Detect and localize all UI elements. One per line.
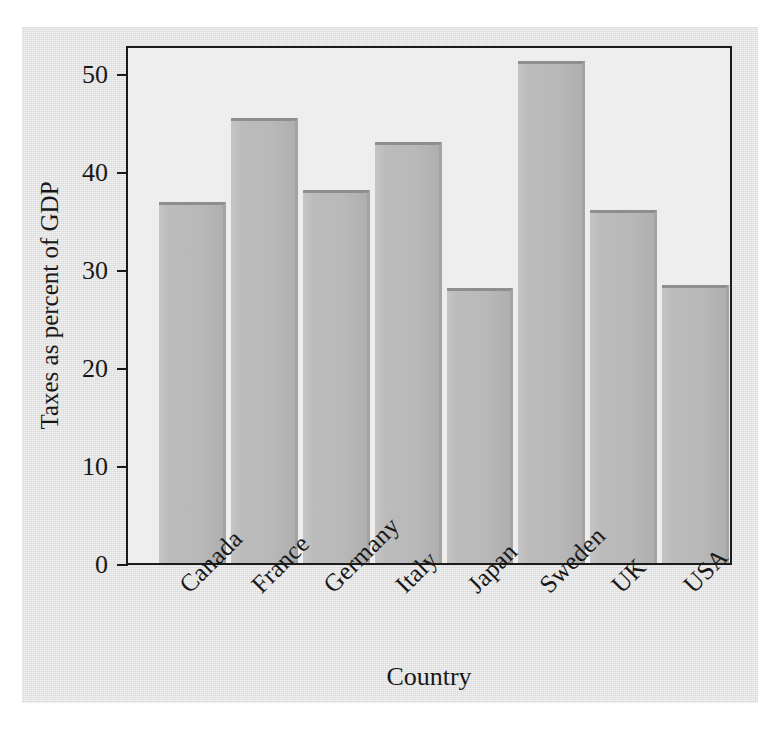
plot-frame: [126, 46, 732, 565]
bar: [375, 142, 442, 563]
bar: [231, 118, 298, 563]
x-axis-title: Country: [126, 662, 732, 692]
y-axis-tick-label: 20: [26, 356, 108, 382]
plot-area: [128, 48, 730, 563]
bar: [447, 288, 514, 563]
y-axis-tick-label: 0: [26, 552, 108, 578]
chart-page: Taxes as percent of GDP 01020304050 Cana…: [0, 0, 779, 739]
y-axis-title: Taxes as percent of GDP: [30, 46, 70, 565]
bar: [662, 285, 729, 563]
bar: [303, 190, 370, 563]
y-axis-tick-label: 10: [26, 454, 108, 480]
y-axis-tick-label: 40: [26, 160, 108, 186]
bar: [518, 61, 585, 563]
y-axis-title-container: Taxes as percent of GDP: [34, 46, 74, 565]
bar: [590, 210, 657, 564]
bar: [159, 202, 226, 563]
y-axis-tick-label: 50: [26, 62, 108, 88]
y-axis-tick-label: 30: [26, 258, 108, 284]
